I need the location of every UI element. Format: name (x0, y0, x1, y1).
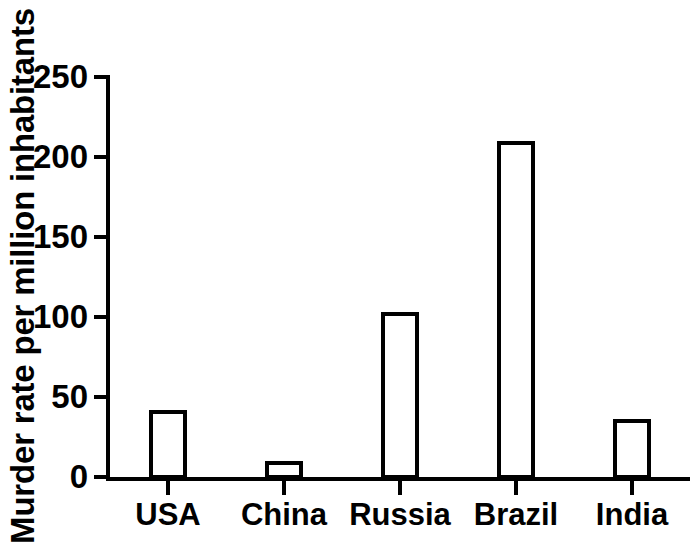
y-tick-200 (94, 155, 106, 159)
y-tick-50 (94, 395, 106, 399)
x-tick-russia (398, 481, 402, 495)
bar-chart-figure: Murder rate per million inhabitants 0 50… (0, 0, 697, 551)
y-tick-100 (94, 315, 106, 319)
y-tick-0 (94, 475, 106, 479)
y-tick-label-50: 50 (0, 380, 88, 413)
y-axis-line (106, 75, 110, 477)
y-tick-label-250: 250 (0, 60, 88, 93)
bar-russia (381, 312, 419, 479)
x-tick-label-usa: USA (110, 499, 226, 530)
bar-brazil (497, 141, 535, 479)
x-tick-brazil (514, 481, 518, 495)
x-tick-label-india: India (574, 499, 690, 530)
bar-usa (149, 410, 187, 479)
x-tick-label-russia: Russia (342, 499, 458, 530)
plot-area: 0 50 100 150 200 250 USA China Russia Br… (110, 77, 690, 477)
y-tick-label-100: 100 (0, 300, 88, 333)
x-tick-label-china: China (226, 499, 342, 530)
y-tick-label-0: 0 (0, 460, 88, 493)
bar-india (613, 419, 651, 479)
x-tick-label-brazil: Brazil (458, 499, 574, 530)
bar-china (265, 461, 303, 479)
y-tick-250 (94, 75, 106, 79)
y-tick-150 (94, 235, 106, 239)
y-tick-label-200: 200 (0, 140, 88, 173)
x-tick-usa (166, 481, 170, 495)
y-tick-label-150: 150 (0, 220, 88, 253)
x-tick-india (630, 481, 634, 495)
x-tick-china (282, 481, 286, 495)
